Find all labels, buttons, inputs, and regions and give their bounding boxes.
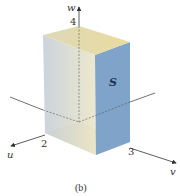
u-axis-label: u — [7, 149, 13, 160]
u-axis — [11, 135, 45, 146]
axis-line-back-right — [130, 93, 155, 102]
w-tick-label: 4 — [70, 16, 76, 27]
axis-line-back-left — [10, 97, 43, 110]
w-axis-label: w — [67, 2, 76, 13]
u-tick-label: 2 — [41, 138, 47, 149]
v-tick-label: 3 — [128, 146, 134, 157]
v-axis — [130, 148, 176, 163]
v-axis-label: v — [170, 166, 176, 177]
front-face — [43, 35, 96, 155]
solid-label: S — [109, 76, 117, 89]
figure-caption: (b) — [75, 182, 87, 194]
box-region-diagram: w 4 u 2 v 3 S (b) — [0, 0, 180, 196]
right-face — [95, 42, 130, 155]
